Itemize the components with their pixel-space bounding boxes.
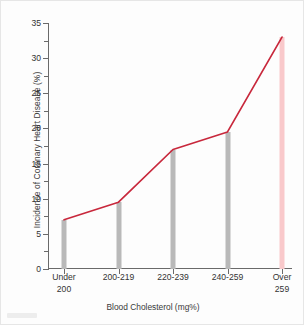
scan-artifact (7, 313, 37, 318)
y-tick-label: 35 (11, 18, 41, 28)
x-axis-title: Blood Cholesterol (mg%) (1, 302, 304, 312)
chart-figure: Incidence of Coronary Heart Disease (%) … (0, 0, 304, 325)
x-tick-label: 240-259 (212, 272, 244, 284)
x-tick-label: 200-219 (103, 272, 135, 284)
line-series (48, 23, 292, 269)
y-tick-label: 10 (11, 194, 41, 204)
y-tick-label: 0 (11, 264, 41, 274)
y-tick-label: 15 (11, 159, 41, 169)
x-axis-tick-labels: Under200200-219220-239240-259Over259 (48, 272, 292, 306)
y-axis-tick-labels: 05101520253035 (9, 23, 41, 269)
plot-area (48, 23, 292, 269)
y-tick-label: 25 (11, 88, 41, 98)
y-tick-label: 5 (11, 229, 41, 239)
y-tick-label: 20 (11, 123, 41, 133)
x-tick-label: Under200 (52, 272, 75, 295)
x-tick-label: 220-239 (157, 272, 189, 284)
x-tick-label: Over259 (273, 272, 292, 295)
y-tick-label: 30 (11, 53, 41, 63)
